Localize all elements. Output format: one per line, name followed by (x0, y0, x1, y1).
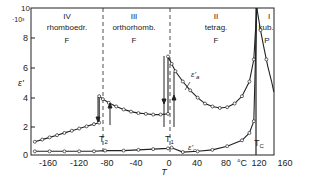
data-point (137, 148, 140, 151)
phase-i-roman: I (268, 12, 270, 21)
data-point (218, 106, 221, 109)
phase-iii-name: orthorhomb. (112, 23, 155, 32)
data-point (48, 136, 51, 139)
data-point (93, 123, 96, 126)
hysteresis-t1 (162, 56, 176, 127)
t1-label: T1 (165, 134, 175, 145)
phase-iv-type: F (65, 36, 70, 45)
data-point (181, 80, 184, 83)
data-point (226, 106, 229, 109)
phase-iii-roman: III (131, 12, 138, 21)
data-point (152, 113, 155, 116)
phase-ii-type: F (214, 36, 219, 45)
x-tick-0: 0 (166, 158, 171, 168)
data-point (144, 112, 147, 115)
data-point (196, 150, 199, 153)
data-point (33, 150, 36, 153)
y-tick-2: 2 (23, 122, 28, 132)
data-point (167, 55, 170, 58)
y-axis: 10 ·10³ 8 6 4 2 0 ε' (12, 4, 35, 160)
x-tick-m160: -160 (39, 158, 57, 168)
data-point (167, 147, 170, 150)
data-point (122, 108, 125, 111)
data-point (233, 102, 236, 105)
data-point (48, 150, 51, 153)
phase-ii-name: tetrag. (205, 23, 228, 32)
ec-label: ε'c (188, 143, 196, 153)
x-tick-m120: -120 (70, 158, 88, 168)
data-point (211, 105, 214, 108)
phase-ii-roman: II (214, 12, 218, 21)
data-point (85, 125, 88, 128)
data-point (152, 148, 155, 151)
data-point (33, 140, 36, 143)
y-tick-6: 6 (23, 63, 28, 73)
data-point (93, 150, 96, 153)
data-point (70, 129, 73, 132)
data-point (211, 148, 214, 151)
data-point (189, 89, 192, 92)
data-point (204, 102, 207, 105)
x-tick-m40: -40 (129, 158, 142, 168)
y-tick-10: 10 (21, 4, 30, 13)
data-point (122, 149, 125, 152)
data-point (63, 150, 66, 153)
data-point (115, 105, 118, 108)
x-tick-m80: -80 (100, 158, 113, 168)
phase-i-type: P (264, 36, 269, 45)
data-point (159, 113, 162, 116)
data-point (63, 131, 66, 134)
t2-label: T2 (99, 134, 109, 145)
data-point (248, 80, 251, 83)
permittivity-chart: 10 ·10³ 8 6 4 2 0 ε' -160 -120 -80 -40 0… (0, 0, 309, 180)
data-point (78, 150, 81, 153)
x-tick-80: 80 (221, 158, 231, 168)
data-point (259, 29, 262, 32)
y-multiplier: ·10³ (12, 16, 25, 23)
phase-iv-roman: IV (63, 12, 71, 21)
data-point (248, 131, 251, 134)
series-cubic (257, 8, 274, 92)
y-tick-0: 0 (23, 150, 28, 160)
data-point (41, 138, 44, 141)
phase-labels: IV rhomboedr. F III orthorhomb. F II tet… (47, 12, 274, 45)
x-axis: -160 -120 -80 -40 0 40 80 °C 120 160 T (39, 158, 293, 177)
data-point (137, 112, 140, 115)
data-point (56, 134, 59, 137)
data-point (241, 95, 244, 98)
x-axis-label: T (161, 167, 168, 177)
y-tick-4: 4 (23, 93, 28, 103)
phase-iv-name: rhomboedr. (47, 23, 87, 32)
data-point (104, 149, 107, 152)
data-point (241, 139, 244, 142)
data-point (101, 98, 104, 101)
y-axis-label: ε' (18, 78, 24, 88)
ea-label: ε'a (191, 70, 200, 80)
x-unit: °C (237, 158, 248, 168)
data-point (170, 146, 173, 149)
data-point (196, 96, 199, 99)
x-tick-160: 160 (277, 158, 292, 168)
data-point (78, 127, 81, 130)
data-point (181, 151, 184, 154)
data-point (170, 62, 173, 65)
data-point (252, 120, 255, 123)
data-point (130, 110, 133, 113)
tc-label: TC (254, 138, 265, 149)
data-point (167, 112, 170, 115)
x-tick-120: 120 (251, 158, 266, 168)
data-point (265, 58, 268, 61)
data-point (226, 145, 229, 148)
phase-iii-type: F (132, 36, 137, 45)
y-tick-8: 8 (23, 33, 28, 43)
x-tick-40: 40 (192, 158, 202, 168)
